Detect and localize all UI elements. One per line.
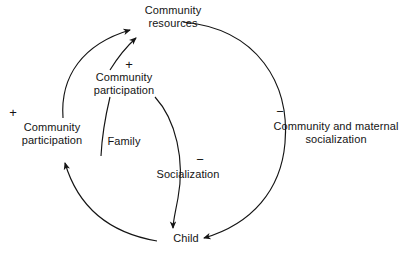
causal-loop-diagram: Community resources Community participat… — [0, 0, 401, 256]
edge-resources-to-child-socialization — [155, 97, 180, 228]
node-family: Family — [102, 135, 146, 148]
node-community-resources: Community resources — [118, 4, 228, 30]
edge-child-to-participation-left — [65, 163, 157, 241]
node-socialization: Socialization — [146, 168, 230, 181]
node-community-participation-left: Community participation — [2, 121, 102, 147]
node-community-participation-inner: Community participation — [72, 71, 176, 97]
sign-socialization: − — [194, 153, 206, 166]
sign-community-participation-left: + — [7, 106, 19, 119]
sign-community-participation-inner: + — [123, 58, 135, 71]
sign-community-and-maternal-socialization: − — [274, 105, 286, 118]
node-community-and-maternal-socialization: Community and maternal socialization — [272, 120, 400, 146]
node-child: Child — [166, 232, 206, 245]
edge-resources-to-child-right — [183, 22, 286, 238]
